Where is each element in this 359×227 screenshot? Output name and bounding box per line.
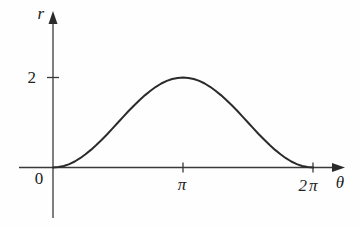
y-axis-arrowhead-icon (49, 11, 58, 24)
x-axis-arrowhead-icon (332, 163, 345, 172)
x-tick-label-2pi: 2π (292, 177, 326, 194)
x-tick-label-pi: π (172, 176, 192, 193)
tick-marks (47, 78, 313, 173)
curve (53, 78, 313, 168)
origin-label: 0 (31, 170, 47, 187)
y-tick-label-2: 2 (18, 69, 36, 86)
figure-container: r 2 0 π 2π θ (0, 0, 359, 227)
x-axis-label: θ (331, 174, 349, 191)
y-axis-label: r (28, 5, 44, 22)
